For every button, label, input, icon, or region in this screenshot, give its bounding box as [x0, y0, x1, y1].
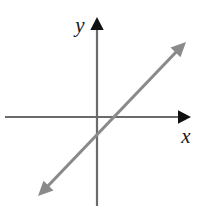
figure-canvas: y x: [0, 0, 218, 216]
x-axis-label: x: [180, 124, 191, 148]
y-axis-label: y: [73, 13, 85, 37]
coordinate-plane-graphic: y x: [0, 0, 218, 216]
figure-background: [0, 0, 218, 216]
